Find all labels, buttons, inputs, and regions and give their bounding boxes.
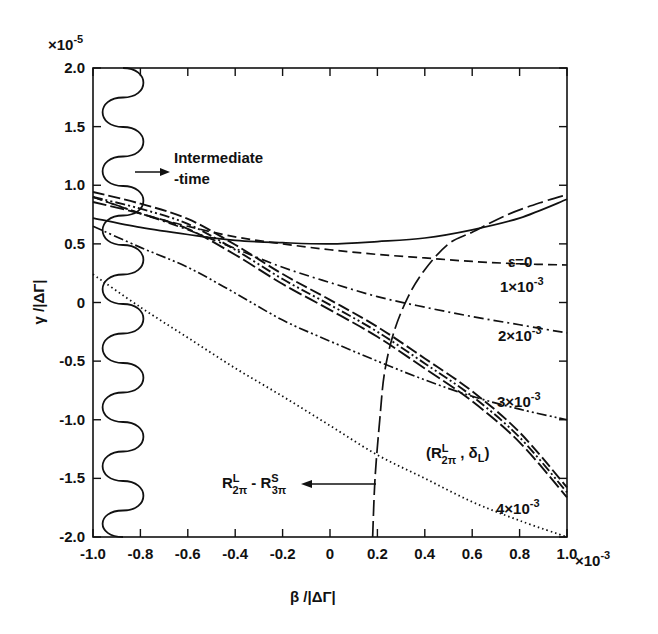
y-tick-label: 1.5 — [64, 118, 85, 135]
annotation-intermediate: Intermediate — [174, 149, 263, 166]
x-tick-label: -0.4 — [222, 545, 249, 562]
curve--r2-l-l- — [93, 202, 567, 497]
curve-2-10-3 — [93, 197, 567, 333]
chart-canvas: -1.0-0.8-0.6-0.4-0.200.20.40.60.81.02.01… — [0, 0, 658, 634]
x-tick-label: -0.2 — [270, 545, 296, 562]
curve-4-10-3 — [93, 274, 567, 537]
y-tick-label: 0 — [77, 294, 85, 311]
x-tick-label: 0.6 — [462, 545, 483, 562]
label-eps3: 3×10-3 — [497, 390, 541, 410]
x-tick-label: 0.2 — [367, 545, 388, 562]
y-tick-label: -1.0 — [59, 411, 85, 428]
x-tick-label: 0.8 — [509, 545, 530, 562]
curves — [93, 192, 567, 537]
annotation-time: -time — [174, 170, 210, 187]
y-tick-label: 1.0 — [64, 176, 85, 193]
label-r2pi-deltaL: (RL2π , δL) — [426, 442, 489, 466]
intermediate-time-wiggle — [103, 68, 144, 537]
arrowhead-icon — [301, 480, 312, 488]
x-tick-label: 0 — [326, 545, 334, 562]
label-eps0: ε=0 — [508, 253, 532, 270]
x-tick-label: -0.6 — [175, 545, 201, 562]
y-tick-label: -1.5 — [59, 469, 85, 486]
label-eps4: 4×10-3 — [496, 497, 540, 517]
x-tick-label: 0.4 — [414, 545, 436, 562]
y-axis-title: γ /|ΔΓ| — [30, 280, 47, 325]
y-tick-label: -0.5 — [59, 352, 85, 369]
label-r2pi-minus-r3pi: RL2π - RS3π — [222, 472, 287, 496]
curve-r2-l-r3-s — [373, 195, 567, 537]
x-tick-label: -1.0 — [80, 545, 106, 562]
x-tick-label: -0.8 — [127, 545, 153, 562]
label-eps2: 2×10-3 — [498, 324, 542, 344]
x-axis-title: β /|ΔΓ| — [290, 588, 336, 605]
x-multiplier: ×10-3 — [575, 549, 610, 569]
curve--r2-l-l- — [93, 192, 567, 487]
plot-frame — [93, 68, 567, 537]
curve--r2-l-l- — [93, 197, 567, 492]
y-tick-label: 2.0 — [64, 59, 85, 76]
arrowhead-icon — [160, 168, 170, 176]
intermediate-time-curve — [103, 68, 144, 537]
y-tick-label: 0.5 — [64, 235, 85, 252]
y-multiplier: ×10-5 — [48, 33, 83, 53]
label-eps1: 1×10-3 — [500, 275, 544, 295]
axes: -1.0-0.8-0.6-0.4-0.200.20.40.60.81.02.01… — [59, 59, 577, 562]
y-tick-label: -2.0 — [59, 528, 85, 545]
